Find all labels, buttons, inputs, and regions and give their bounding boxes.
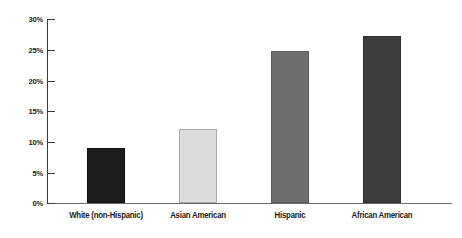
- x-axis-baseline: [47, 203, 452, 204]
- y-axis-label-5: 5%: [3, 169, 43, 178]
- bar-white-non-hispanic: [87, 148, 125, 203]
- y-axis-label-10: 10%: [3, 138, 43, 147]
- y-axis-tick-5: [47, 173, 55, 174]
- bar-asian-american: [179, 129, 217, 203]
- y-axis-tick-25: [47, 50, 55, 51]
- x-axis-label-asian-american: Asian American: [152, 210, 244, 220]
- y-axis-label-25: 25%: [3, 46, 43, 55]
- x-axis-label-white-non-hispanic: White (non-Hispanic): [60, 210, 152, 220]
- bar-hispanic: [271, 51, 309, 203]
- y-axis-tick-0: [47, 203, 55, 204]
- bar-african-american: [363, 36, 401, 203]
- y-axis-label-20: 20%: [3, 77, 43, 86]
- bar-chart: 30% 25% 20% 15% 10% 5% 0% White (non-His…: [0, 0, 462, 238]
- y-axis-tick-15: [47, 111, 55, 112]
- y-axis-label-0: 0%: [3, 199, 43, 208]
- y-axis-tick-20: [47, 81, 55, 82]
- y-axis-tick-10: [47, 142, 55, 143]
- y-axis-label-15: 15%: [3, 107, 43, 116]
- y-axis-label-30: 30%: [3, 15, 43, 24]
- x-axis-label-african-american: African American: [336, 210, 428, 220]
- y-axis-tick-30: [47, 19, 55, 20]
- x-axis-label-hispanic: Hispanic: [244, 210, 336, 220]
